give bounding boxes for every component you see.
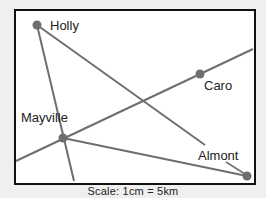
town-dot-holly [33, 21, 42, 30]
scale-label: Scale: 1cm = 5km [0, 185, 266, 197]
town-label-almont: Almont [198, 149, 238, 162]
town-label-mayville: Mayville [21, 111, 68, 124]
roads-layer [0, 0, 266, 198]
town-dot-mayville [59, 134, 68, 143]
town-label-holly: Holly [50, 19, 79, 32]
town-dot-almont [243, 172, 252, 181]
road-mayville-caro [16, 49, 253, 161]
town-label-caro: Caro [204, 79, 232, 92]
